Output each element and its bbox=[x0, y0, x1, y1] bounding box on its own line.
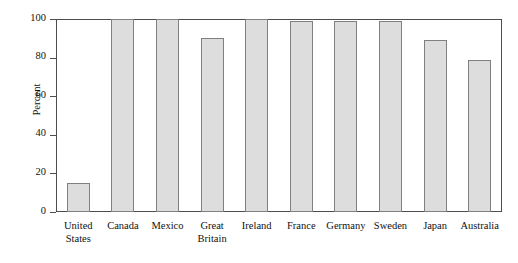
x-tick-label: Japan bbox=[413, 220, 458, 233]
x-tick-label-line: States bbox=[56, 233, 101, 246]
x-tick-label: France bbox=[279, 220, 324, 233]
x-axis: UnitedStatesCanadaMexicoGreatBritainIrel… bbox=[56, 214, 502, 262]
y-tick-label: 100 bbox=[30, 12, 46, 23]
x-tick-label: Mexico bbox=[145, 220, 190, 233]
bar bbox=[424, 40, 447, 212]
bar bbox=[111, 19, 134, 212]
x-tick-label-line: Canada bbox=[107, 220, 139, 231]
x-tick-label-line: Britain bbox=[190, 233, 235, 246]
bar bbox=[290, 21, 313, 212]
x-tick-label-line: Mexico bbox=[151, 220, 183, 231]
x-tick-label-line: Sweden bbox=[374, 220, 407, 231]
x-tick-label: Germany bbox=[324, 220, 369, 233]
bar bbox=[67, 183, 90, 212]
y-tick-label: 0 bbox=[41, 205, 46, 216]
x-tick-label-line: Ireland bbox=[242, 220, 272, 231]
x-tick-label: GreatBritain bbox=[190, 220, 235, 245]
x-tick-label-line: Germany bbox=[326, 220, 365, 231]
bar bbox=[201, 38, 224, 212]
bar bbox=[334, 21, 357, 212]
x-tick-label-line: Australia bbox=[460, 220, 499, 231]
x-tick-label: Sweden bbox=[368, 220, 413, 233]
bar bbox=[156, 19, 179, 212]
y-tick-label: 80 bbox=[36, 50, 47, 61]
bars-container bbox=[56, 19, 502, 212]
x-tick-label-line: France bbox=[287, 220, 316, 231]
x-tick-label: Canada bbox=[101, 220, 146, 233]
x-tick-label-line: United bbox=[64, 220, 93, 231]
bar bbox=[468, 60, 491, 212]
x-tick-label-line: Great bbox=[200, 220, 223, 231]
bar-chart: Percent 020406080100 UnitedStatesCanadaM… bbox=[0, 0, 518, 263]
y-tick-label: 60 bbox=[36, 89, 47, 100]
y-tick-mark bbox=[50, 212, 56, 213]
x-tick-label: UnitedStates bbox=[56, 220, 101, 245]
x-tick-label-line: Japan bbox=[423, 220, 447, 231]
bar bbox=[245, 19, 268, 212]
bar bbox=[379, 21, 402, 212]
x-tick-label: Ireland bbox=[234, 220, 279, 233]
x-tick-label: Australia bbox=[457, 220, 502, 233]
y-tick-label: 40 bbox=[36, 127, 47, 138]
y-tick-label: 20 bbox=[36, 166, 47, 177]
